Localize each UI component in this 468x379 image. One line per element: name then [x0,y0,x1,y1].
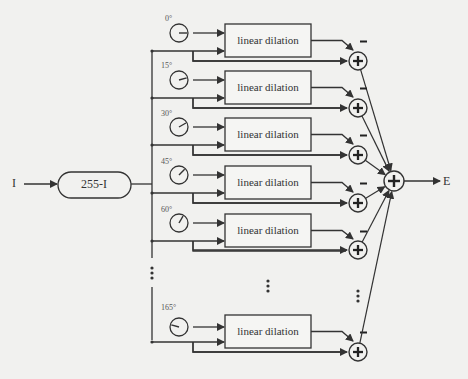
linear-dilation-label: linear dilation [225,34,311,46]
input-label: I [12,176,16,191]
angle-label: 165° [161,303,176,312]
dilation-diagram: I E 255-I 0° 15° 30° 45° 60° 165° linear… [0,0,468,379]
angle-dial-icon [170,118,188,136]
linear-dilation-label: linear dilation [225,128,311,140]
sum-node [349,343,367,361]
sum-node [349,194,367,212]
angle-label: 0° [165,14,172,23]
angle-dial-icon [170,318,188,336]
sum-node [349,52,367,70]
angle-dial-icon [170,24,188,42]
angle-dial-icon [170,71,188,89]
final-sum-node [384,171,404,191]
linear-dilation-label: linear dilation [225,325,311,337]
dilation-row [150,166,384,212]
invert-block-label: 255-I [58,177,130,192]
sum-ellipsis-icon [356,289,359,302]
angle-label: 30° [161,109,172,118]
angle-label: 15° [161,61,172,70]
linear-dilation-label: linear dilation [225,81,311,93]
linear-dilation-label: linear dilation [225,224,311,236]
output-label: E [443,174,450,189]
sum-node [349,241,367,259]
sum-node [349,146,367,164]
bus-ellipsis-icon [150,266,153,279]
linear-dilation-label: linear dilation [225,176,311,188]
angle-label: 45° [161,157,172,166]
angle-dial-icon [170,214,188,232]
angle-label: 60° [161,205,172,214]
angle-dial-icon [170,166,188,184]
sum-node [349,99,367,117]
block-ellipsis-icon [266,279,269,292]
